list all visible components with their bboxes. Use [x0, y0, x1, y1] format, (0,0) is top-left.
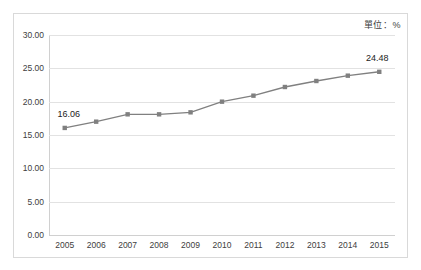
data-point-marker	[314, 79, 318, 83]
x-axis-tick: 2012	[275, 240, 294, 250]
y-axis-tick: 25.00	[0, 63, 44, 73]
y-axis-tick: 0.00	[0, 230, 44, 240]
data-point-marker	[377, 70, 381, 74]
data-point-marker	[63, 126, 67, 130]
data-point-marker	[346, 73, 350, 77]
data-point-label: 16.06	[57, 109, 80, 119]
y-axis-tick: 15.00	[0, 130, 44, 140]
unit-note: 單位：%	[364, 18, 401, 31]
y-axis-tick: 20.00	[0, 97, 44, 107]
x-axis-tick: 2010	[213, 240, 232, 250]
x-axis-tick: 2011	[244, 240, 262, 250]
data-point-marker	[188, 110, 192, 114]
y-axis-tick: 30.00	[0, 30, 44, 40]
y-axis-tick-labels: 0.005.0010.0015.0020.0025.0030.00	[0, 0, 46, 270]
plot-area: 16.0624.48	[49, 35, 395, 235]
data-point-marker	[283, 85, 287, 89]
x-axis-tick: 2009	[181, 240, 200, 250]
x-axis-tick: 2008	[150, 240, 169, 250]
x-axis-tick: 2005	[55, 240, 74, 250]
data-point-marker	[125, 112, 129, 116]
data-point-marker	[94, 119, 98, 123]
x-axis-tick: 2006	[87, 240, 106, 250]
data-point-label: 24.48	[366, 53, 389, 63]
line-series	[49, 35, 395, 235]
y-axis-tick: 5.00	[0, 197, 44, 207]
data-point-marker	[157, 112, 161, 116]
x-axis-tick: 2007	[118, 240, 137, 250]
data-point-marker	[251, 93, 255, 97]
gridline	[49, 235, 395, 236]
x-axis-tick-labels: 2005200620072008200920102011201220132014…	[49, 240, 395, 256]
x-axis-tick: 2014	[338, 240, 357, 250]
data-point-marker	[220, 99, 224, 103]
y-axis-tick: 10.00	[0, 163, 44, 173]
x-axis-tick: 2013	[307, 240, 326, 250]
x-axis-tick: 2015	[370, 240, 389, 250]
